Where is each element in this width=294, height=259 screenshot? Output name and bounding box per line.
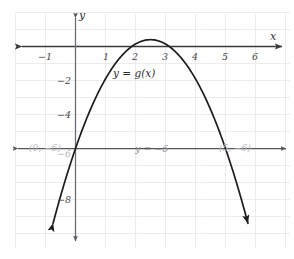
horizontal-line-equation-label: y = −6 — [135, 144, 168, 154]
y-tick-label--2: −2 — [57, 76, 71, 86]
x-tick-label-5: 5 — [222, 52, 228, 62]
y-axis-label: y — [79, 10, 85, 21]
x-tick-label-3: 3 — [162, 52, 168, 62]
y-tick-label--4: −4 — [57, 110, 71, 120]
x-axis-label: x — [270, 31, 276, 42]
x-tick-label-6: 6 — [252, 52, 258, 62]
coordinate-plane — [0, 0, 294, 259]
right-intersection-point-label: (5, −6) — [219, 144, 251, 153]
x-tick-label-4: 4 — [192, 52, 198, 62]
left-intersection-point-label: (0, −6) — [29, 144, 61, 153]
graph-figure: x y −1 1 2 3 4 5 6 −2 −4 −6 −8 y = g(x) … — [0, 0, 294, 259]
x-tick-label--1: −1 — [38, 52, 52, 62]
curve-equation-label: y = g(x) — [113, 68, 155, 79]
y-tick-label--8: −8 — [57, 195, 71, 205]
x-tick-label-2: 2 — [132, 52, 138, 62]
x-tick-label-1: 1 — [103, 52, 109, 62]
